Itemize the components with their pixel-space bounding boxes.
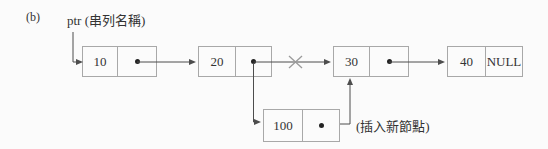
node-100-value: 100: [264, 110, 303, 141]
node-40-null-cell: NULL: [486, 47, 522, 76]
node-100-pointer-cell: [303, 110, 339, 141]
arrow-ptr-to-10: [73, 32, 76, 62]
arrowhead-into-100: [254, 119, 261, 125]
pointer-dot: [135, 59, 140, 64]
arrowhead-up-into-30: [347, 78, 353, 85]
node-30-value: 30: [334, 47, 370, 76]
node-30-pointer-cell: [370, 47, 408, 76]
pointer-dot: [319, 123, 324, 128]
cross-stroke-2: [289, 56, 302, 68]
arrowhead-into-20: [189, 59, 196, 65]
node-40: 40 NULL: [447, 46, 523, 77]
cross-icon: [289, 56, 302, 68]
node-20-pointer-cell: [236, 47, 271, 76]
ptr-label: ptr (串列名稱): [67, 10, 145, 29]
null-text: NULL: [487, 54, 522, 70]
node-10-pointer-cell: [118, 47, 156, 76]
linked-list-diagram: (b) ptr (串列名稱) (插入新節點) 10 20 30 40 NULL …: [0, 0, 548, 149]
node-20-value: 20: [199, 47, 236, 76]
node-10-value: 10: [83, 47, 118, 76]
node-30: 30: [333, 46, 409, 77]
node-100: 100: [263, 109, 340, 142]
node-20: 20: [198, 46, 272, 77]
node-40-value: 40: [448, 47, 486, 76]
arrowhead-into-40: [438, 59, 445, 65]
figure-label: (b): [26, 10, 40, 25]
arrow-100-to-30: [340, 84, 350, 124]
pointer-dot: [387, 59, 392, 64]
insert-new-node-label: (插入新節點): [356, 116, 430, 135]
pointer-dot: [251, 59, 256, 64]
cross-stroke-1: [289, 56, 302, 68]
node-10: 10: [82, 46, 157, 77]
arrowhead-into-30: [324, 59, 331, 65]
